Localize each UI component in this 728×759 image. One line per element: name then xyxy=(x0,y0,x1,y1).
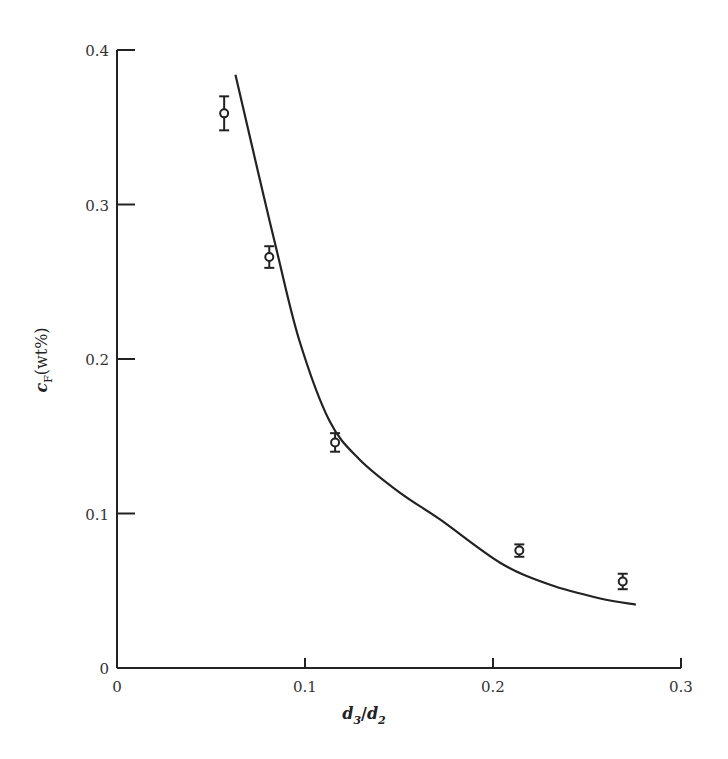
data-point xyxy=(264,246,274,268)
data-points xyxy=(219,96,628,589)
x-tick-label: 0.3 xyxy=(669,678,693,696)
y-tick-label: 0.1 xyxy=(85,506,109,524)
y-tick-label: 0.3 xyxy=(85,197,109,215)
data-point xyxy=(219,96,229,130)
fit-curve-path xyxy=(235,75,635,605)
open-circle-marker xyxy=(515,547,523,555)
data-point xyxy=(618,574,628,589)
open-circle-marker xyxy=(619,577,627,585)
open-circle-marker xyxy=(220,109,228,117)
fit-curve xyxy=(235,75,635,605)
chart: 00.10.20.30.400.10.20.3 d3/d2 cF(wt%) xyxy=(0,0,728,759)
open-circle-marker xyxy=(265,253,273,261)
x-tick-label: 0.1 xyxy=(293,678,317,696)
y-axis-label: cF(wt%) xyxy=(32,327,55,392)
axes xyxy=(117,50,681,668)
y-tick-label: 0.2 xyxy=(85,351,109,369)
y-tick-label: 0.4 xyxy=(85,42,109,60)
x-axis-label: d3/d2 xyxy=(342,704,386,727)
data-point xyxy=(514,544,524,556)
x-tick-label: 0 xyxy=(112,678,122,696)
y-tick-label: 0 xyxy=(99,660,109,678)
x-tick-label: 0.2 xyxy=(481,678,505,696)
open-circle-marker xyxy=(331,438,339,446)
